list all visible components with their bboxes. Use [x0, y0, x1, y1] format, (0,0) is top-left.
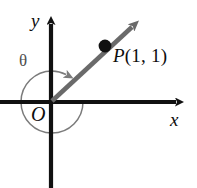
- point-p-label: P(1, 1): [113, 46, 167, 65]
- x-axis-label: x: [170, 110, 178, 129]
- point-p-name: P: [113, 45, 125, 66]
- point-p-coordinates: (1, 1): [125, 45, 167, 66]
- coordinate-plane-figure: y x O θ P(1, 1): [0, 0, 197, 188]
- angle-theta-label: θ: [19, 52, 27, 69]
- diagram-canvas: [0, 0, 197, 188]
- point-p-marker: [99, 40, 112, 53]
- y-axis-label: y: [31, 11, 39, 30]
- angle-arc-arrow-segment: [52, 71, 66, 75]
- origin-label: O: [31, 104, 45, 124]
